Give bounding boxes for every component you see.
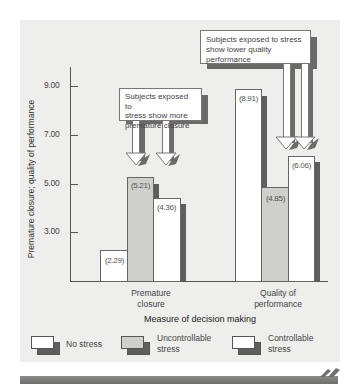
category-label-line: performance	[233, 299, 323, 310]
y-tick	[71, 135, 78, 136]
y-tick	[71, 86, 78, 87]
arrow-stem	[283, 62, 291, 138]
callout-text-line: stress show more	[125, 111, 196, 121]
arrow-stem	[301, 62, 309, 138]
decorative-brushstroke-icon	[318, 366, 342, 378]
legend-label: Uncontrollable stress	[157, 333, 211, 355]
value-label: (4.36)	[153, 203, 180, 212]
category-label-quality: Quality of performance	[233, 288, 323, 310]
callout-premature-closure: Subjects exposed to stress show more pre…	[119, 88, 202, 121]
category-label-line: Quality of	[233, 288, 323, 299]
value-label: (2.29)	[101, 256, 128, 265]
legend-label-line: Uncontrollable	[157, 333, 211, 344]
footer-rule	[20, 376, 338, 384]
legend-label-line: stress	[268, 344, 313, 355]
callout-text-line: show lower quality performance	[206, 45, 305, 65]
value-label: (4.85)	[262, 194, 289, 203]
arrow-down-icon	[293, 136, 319, 152]
y-tick-label: 3.00	[44, 226, 68, 236]
bar-premature-uncontrollable	[127, 177, 154, 282]
callout-text-line: Subjects exposed to stress	[206, 35, 305, 45]
callout-quality-performance: Subjects exposed to stress show lower qu…	[200, 30, 311, 64]
y-tick-label: 5.00	[44, 178, 68, 188]
value-label: (6.06)	[288, 161, 315, 170]
callout-shadow	[202, 95, 208, 123]
y-tick-label: 9.00	[44, 80, 68, 90]
callout-text-line: Subjects exposed to	[125, 92, 196, 111]
value-label: (8.91)	[235, 94, 262, 103]
bar-quality-controllable	[288, 156, 315, 282]
legend-label: No stress	[66, 339, 102, 350]
legend-swatch	[232, 336, 255, 349]
y-tick	[71, 232, 78, 233]
value-label: (5.21)	[127, 181, 154, 190]
category-label-line: closure	[106, 299, 196, 310]
arrow-down-icon	[125, 152, 151, 168]
category-label-premature-closure: Premature closure	[106, 288, 196, 310]
bar-premature-no-stress	[100, 250, 128, 282]
y-tick-label: 7.00	[44, 129, 68, 139]
legend-label-line: Controllable	[268, 333, 313, 344]
legend-label: Controllable stress	[268, 333, 313, 355]
legend-swatch	[31, 336, 54, 349]
y-axis	[70, 67, 71, 281]
category-label-line: Premature	[106, 288, 196, 299]
y-axis-label: Premature closure; quality of performanc…	[26, 89, 36, 269]
y-tick	[71, 184, 78, 185]
legend-label-line: stress	[157, 344, 211, 355]
callout-text-line: premature closure	[125, 121, 196, 131]
bar-quality-no-stress	[235, 89, 262, 282]
legend-swatch	[121, 336, 144, 349]
x-axis-label: Measure of decision making	[100, 314, 300, 324]
arrow-down-icon	[155, 152, 181, 168]
